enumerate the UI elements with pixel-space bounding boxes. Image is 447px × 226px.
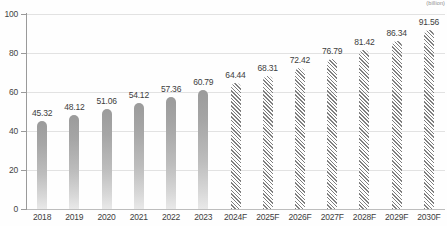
bar-2029F — [392, 41, 402, 209]
bar-slot: 86.34 — [392, 14, 402, 209]
x-tick-label-2024F: 2024F — [224, 212, 247, 222]
bar-value-label: 72.42 — [290, 55, 310, 65]
bar-value-label: 81.42 — [354, 37, 374, 47]
bar-2028F — [359, 50, 369, 209]
x-tick-label-2030F: 2030F — [417, 212, 440, 222]
y-tick-label-40: 40 — [0, 126, 18, 136]
bar-2030F — [424, 30, 434, 209]
bar-slot: 51.06 — [102, 14, 112, 209]
y-tick-label-20: 20 — [0, 165, 18, 175]
y-tick-label-0: 0 — [0, 204, 18, 214]
bar-value-label: 48.12 — [64, 102, 84, 112]
y-tick-label-60: 60 — [0, 87, 18, 97]
x-tick-label-2027F: 2027F — [321, 212, 344, 222]
bar-chart: (billion) 020406080100 45.3248.1251.0654… — [0, 0, 447, 226]
x-tick-label-2021: 2021 — [130, 212, 148, 222]
x-tick-label-2029F: 2029F — [385, 212, 408, 222]
x-tick-label-2023: 2023 — [194, 212, 212, 222]
x-tick-label-2020: 2020 — [98, 212, 116, 222]
bar-slot: 64.44 — [231, 14, 241, 209]
bar-slot: 60.79 — [198, 14, 208, 209]
x-tick-label-2018: 2018 — [33, 212, 51, 222]
bar-slot: 68.31 — [263, 14, 273, 209]
bar-value-label: 45.32 — [32, 108, 52, 118]
bar-slot: 81.42 — [359, 14, 369, 209]
y-tick-label-80: 80 — [0, 48, 18, 58]
x-tick-label-2019: 2019 — [65, 212, 83, 222]
bar-2027F — [327, 59, 337, 209]
bar-2020 — [102, 109, 112, 209]
bar-value-label: 51.06 — [96, 96, 116, 106]
x-tick-label-2022: 2022 — [162, 212, 180, 222]
x-tick-label-2025F: 2025F — [256, 212, 279, 222]
bar-value-label: 76.79 — [322, 46, 342, 56]
bar-value-label: 86.34 — [387, 28, 407, 38]
bar-slot: 54.12 — [134, 14, 144, 209]
bar-slot: 45.32 — [37, 14, 47, 209]
bar-2022 — [166, 97, 176, 209]
x-tick-label-2026F: 2026F — [288, 212, 311, 222]
bar-slot: 91.56 — [424, 14, 434, 209]
x-axis: 2018201920202021202220232024F2025F2026F2… — [26, 212, 445, 226]
x-tick-label-2028F: 2028F — [353, 212, 376, 222]
bar-series: 45.3248.1251.0654.1257.3660.7964.4468.31… — [26, 14, 445, 209]
bar-2025F — [263, 76, 273, 209]
bar-2023 — [198, 90, 208, 209]
bar-slot: 57.36 — [166, 14, 176, 209]
gridline-0 — [26, 209, 445, 210]
bar-slot: 72.42 — [295, 14, 305, 209]
bar-2021 — [134, 103, 144, 209]
bar-value-label: 68.31 — [258, 63, 278, 73]
bar-value-label: 64.44 — [225, 70, 245, 80]
bar-value-label: 91.56 — [419, 17, 439, 27]
y-tick-label-100: 100 — [0, 9, 18, 19]
unit-caption: (billion) — [426, 0, 445, 6]
bar-value-label: 54.12 — [129, 90, 149, 100]
bar-2019 — [69, 115, 79, 209]
bar-2024F — [231, 83, 241, 209]
bar-2026F — [295, 68, 305, 209]
bar-slot: 48.12 — [69, 14, 79, 209]
bar-slot: 76.79 — [327, 14, 337, 209]
bar-value-label: 57.36 — [161, 84, 181, 94]
bar-2018 — [37, 121, 47, 209]
bar-value-label: 60.79 — [193, 77, 213, 87]
y-tick-0 — [21, 209, 27, 210]
